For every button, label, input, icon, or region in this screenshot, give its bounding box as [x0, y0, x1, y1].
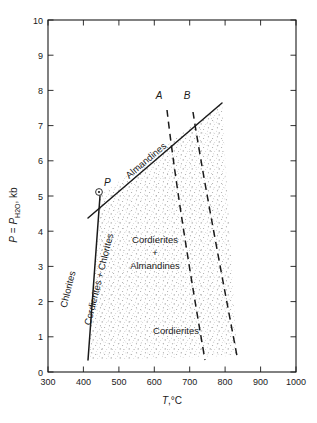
stippled-assemblage-field: [88, 103, 237, 360]
y-tick-label: 6: [38, 156, 43, 166]
y-tick-label: 9: [38, 51, 43, 61]
label-plus-sign: +: [152, 247, 158, 258]
label-cordierites-top: Cordierites: [132, 234, 178, 245]
x-axis-title: T,°C: [162, 395, 182, 406]
x-tick-label: 500: [111, 377, 126, 387]
y-tick-label: 7: [38, 121, 43, 131]
y-tick-label: 4: [38, 227, 43, 237]
x-axis-tick-labels: 300 400 500 600 700 800 900 1000: [40, 377, 306, 387]
x-tick-label: 400: [76, 377, 91, 387]
y-tick-label: 1: [38, 332, 43, 342]
x-tick-label: 900: [253, 377, 268, 387]
point-p-label: P: [104, 177, 111, 188]
y-tick-label: 8: [38, 86, 43, 96]
y-axis-title-eq: =: [8, 225, 19, 236]
svg-text:T,°C: T,°C: [162, 395, 182, 406]
phase-diagram-svg: 0 1 2 3 4 5 6 7 8 9 10: [0, 0, 317, 423]
curve-a-label: A: [155, 90, 163, 101]
curve-b-label: B: [184, 90, 191, 101]
y-tick-label: 3: [38, 262, 43, 272]
label-chlorites: Chlorites: [58, 269, 78, 308]
x-tick-label: 300: [40, 377, 55, 387]
y-tick-label: 10: [33, 16, 43, 26]
y-axis-title-unit: , kb: [8, 187, 19, 204]
x-tick-label: 600: [147, 377, 162, 387]
y-tick-label: 2: [38, 297, 43, 307]
svg-text:P = PH2O, kb: P = PH2O, kb: [8, 187, 21, 243]
phase-diagram-figure: 0 1 2 3 4 5 6 7 8 9 10: [0, 0, 317, 423]
x-tick-label: 800: [218, 377, 233, 387]
y-axis-title: P = PH2O, kb: [8, 187, 21, 243]
y-tick-label: 0: [38, 368, 43, 378]
label-chlorites-group: Chlorites: [58, 269, 78, 308]
x-axis-title-unit: ,°C: [168, 395, 182, 406]
x-tick-label: 700: [182, 377, 197, 387]
label-almandines-field: Almandines: [130, 260, 180, 271]
y-tick-label: 5: [38, 192, 43, 202]
x-tick-label: 1000: [286, 377, 306, 387]
label-cordierites-lower: Cordierites: [153, 325, 199, 336]
y-axis-tick-labels: 0 1 2 3 4 5 6 7 8 9 10: [33, 16, 43, 378]
